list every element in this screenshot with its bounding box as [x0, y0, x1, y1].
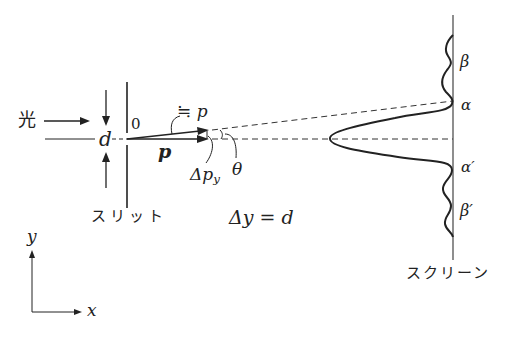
- origin-label: 0: [131, 117, 141, 132]
- delta-y-equation: Δy = d: [229, 208, 294, 227]
- slit-label: スリット: [91, 209, 167, 224]
- beta-prime-label: β′: [460, 203, 473, 219]
- approx-momentum-label: ≒ p: [177, 103, 208, 120]
- intensity-profile: [330, 35, 453, 237]
- slit-width-arrow-top: [102, 90, 110, 126]
- first-minimum-dashed-line: [212, 101, 453, 130]
- theta-leader: [225, 134, 236, 158]
- alpha-prime-label: α′: [461, 160, 475, 175]
- x-axis-label: x: [87, 302, 97, 319]
- delta-py-label: Δpy: [190, 166, 220, 186]
- screen-label: スクリーン: [406, 266, 490, 281]
- x-axis: [32, 309, 82, 315]
- diffraction-diagram: [0, 0, 529, 338]
- light-arrow: [44, 117, 90, 125]
- light-label: 光: [18, 111, 36, 129]
- y-axis-label: y: [27, 228, 37, 245]
- momentum-label: p: [158, 142, 171, 161]
- theta-label: θ: [232, 161, 242, 178]
- y-axis: [29, 250, 35, 312]
- alpha-label: α: [461, 98, 471, 113]
- theta-arc: [220, 130, 222, 139]
- beta-label: β: [460, 54, 469, 70]
- delta-py-leader: [206, 136, 212, 163]
- delta-py-text: Δp: [190, 164, 213, 184]
- slit-width-arrow-bottom: [102, 152, 110, 188]
- slit-width-label: d: [99, 129, 112, 149]
- delta-py-subscript: y: [213, 172, 220, 186]
